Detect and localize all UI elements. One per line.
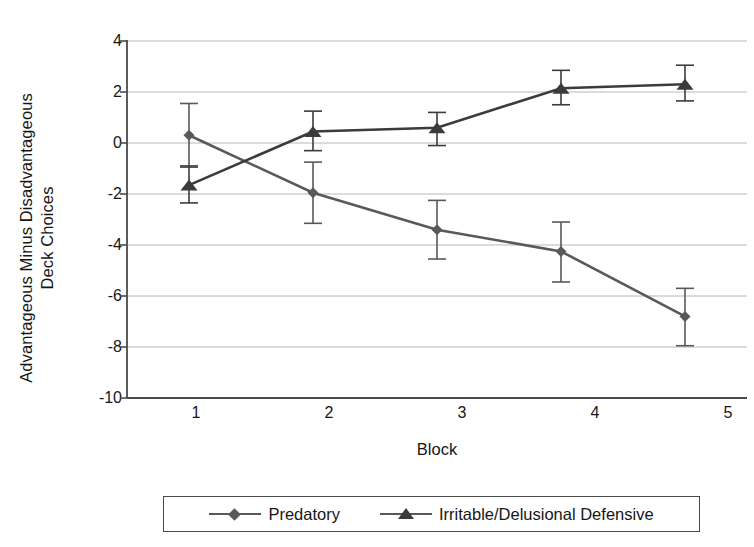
data-point-diamond bbox=[184, 130, 195, 141]
legend-label: Predatory bbox=[268, 505, 340, 524]
legend-item-predatory: Predatory bbox=[209, 505, 340, 524]
legend-label: Irritable/Delusional Defensive bbox=[439, 505, 654, 524]
data-point-diamond bbox=[308, 187, 319, 198]
plot-area bbox=[0, 0, 754, 547]
chart-figure: Advantageous Minus Disadvantageous Deck … bbox=[0, 0, 754, 547]
x-tick-label: 1 bbox=[176, 404, 216, 422]
chart-legend: Predatory Irritable/Delusional Defensive bbox=[163, 496, 700, 532]
diamond-marker-icon bbox=[209, 507, 261, 521]
data-point-diamond bbox=[432, 224, 443, 235]
x-tick-label: 2 bbox=[309, 404, 349, 422]
data-point-diamond bbox=[556, 246, 567, 257]
legend-item-irritable-delusional-defensive: Irritable/Delusional Defensive bbox=[380, 505, 654, 524]
x-tick-label: 4 bbox=[575, 404, 615, 422]
x-axis-label: Block bbox=[127, 440, 747, 459]
x-tick-label: 5 bbox=[708, 404, 748, 422]
x-tick-label: 3 bbox=[442, 404, 482, 422]
triangle-marker-icon bbox=[380, 507, 432, 521]
data-point-diamond bbox=[680, 311, 691, 322]
